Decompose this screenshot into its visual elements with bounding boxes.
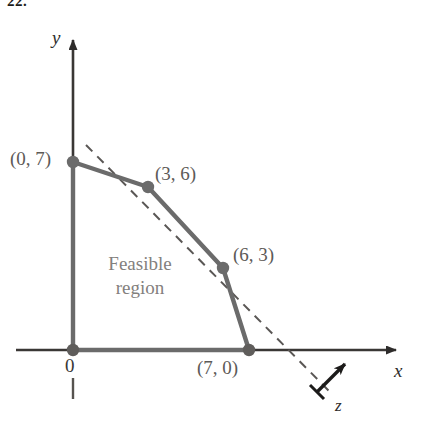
feasible-region-label: Feasible region xyxy=(88,252,192,300)
y-axis-label: y xyxy=(52,28,60,49)
vertex-dot-0-7 xyxy=(67,156,79,168)
vertex-label-3-6: (3, 6) xyxy=(155,164,196,185)
vertex-label-0-7: (0, 7) xyxy=(10,149,51,170)
vertex-dot-7-0 xyxy=(243,344,255,356)
vertex-dot-6-3 xyxy=(217,262,229,274)
origin-label: 0 xyxy=(65,356,75,377)
vertex-label-7-0: (7, 0) xyxy=(197,358,238,379)
objective-z-label: z xyxy=(335,397,342,415)
figure-container: 22. y x 0 (0, 7) (3, 6) (6, 3) (7, 0) Fe… xyxy=(0,0,424,427)
figure-number: 22. xyxy=(7,0,27,9)
x-axis-label: x xyxy=(394,361,402,382)
vertex-dot-3-6 xyxy=(142,181,154,193)
z-direction-arrow xyxy=(317,364,345,392)
feasible-region-label-line2: region xyxy=(88,276,192,300)
feasible-region-label-line1: Feasible xyxy=(88,252,192,276)
vertex-label-6-3: (6, 3) xyxy=(233,245,274,266)
